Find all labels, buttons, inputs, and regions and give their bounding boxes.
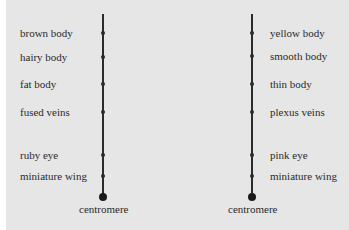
left-gene-locus [101, 153, 105, 157]
right-gene-label: smooth body [270, 50, 327, 62]
right-centromere-label: centromere [228, 203, 277, 215]
right-gene-locus [250, 174, 254, 178]
right-gene-label: thin body [270, 78, 312, 90]
right-gene-locus [250, 110, 254, 114]
right-gene-label: miniature wing [270, 170, 337, 182]
right-chromosome-line [251, 14, 253, 197]
right-gene-locus [250, 31, 254, 35]
left-gene-label: fused veins [20, 106, 70, 118]
right-gene-label: plexus veins [270, 106, 325, 118]
right-gene-locus [250, 82, 254, 86]
left-gene-locus [101, 110, 105, 114]
right-gene-locus [250, 54, 254, 58]
left-gene-locus [101, 31, 105, 35]
left-gene-label: hairy body [20, 51, 67, 63]
left-gene-locus [101, 82, 105, 86]
right-gene-label: yellow body [270, 27, 325, 39]
right-gene-label: pink eye [270, 149, 308, 161]
left-gene-label: ruby eye [20, 149, 58, 161]
diagram-panel: brown body hairy body fat body fused vei… [6, 0, 349, 230]
left-chromosome-line [102, 14, 104, 197]
left-centromere-label: centromere [79, 203, 128, 215]
left-gene-locus [101, 174, 105, 178]
left-gene-label: fat body [20, 78, 56, 90]
left-gene-label: miniature wing [20, 170, 87, 182]
right-centromere [248, 193, 256, 201]
right-gene-locus [250, 153, 254, 157]
left-gene-label: brown body [20, 27, 73, 39]
left-centromere [99, 193, 107, 201]
left-gene-locus [101, 55, 105, 59]
